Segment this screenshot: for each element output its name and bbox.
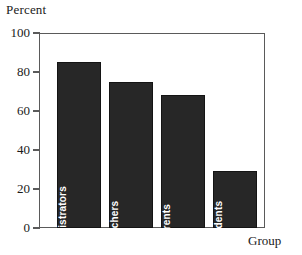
bar-chart-figure: Percent 020406080100 AdministratorsTeach… xyxy=(0,0,302,255)
y-tick-label: 0 xyxy=(0,221,30,234)
y-tick-label: 60 xyxy=(0,104,30,117)
bars-container: AdministratorsTeachersParentsStudents xyxy=(39,33,265,228)
bar: Parents xyxy=(161,95,205,228)
y-axis-label: Percent xyxy=(6,2,46,18)
bar-category-label-text: Students xyxy=(214,201,224,245)
bar: Administrators xyxy=(57,62,101,228)
bar: Students xyxy=(213,171,257,228)
bar-category-label: Teachers xyxy=(121,199,131,244)
bar-category-label: Administrators xyxy=(69,184,79,255)
bar-category-label: Parents xyxy=(173,202,183,240)
bar-category-label: Students xyxy=(225,199,235,243)
y-tick-label: 100 xyxy=(0,26,30,39)
bar: Teachers xyxy=(109,82,153,228)
bar-category-label-text: Parents xyxy=(162,204,172,242)
x-axis-label: Group xyxy=(248,233,281,249)
y-tick-label: 80 xyxy=(0,65,30,78)
bar-category-label-text: Teachers xyxy=(110,201,120,246)
bar-category-label-text: Administrators xyxy=(58,186,68,255)
y-tick-label: 40 xyxy=(0,143,30,156)
y-tick-label: 20 xyxy=(0,182,30,195)
